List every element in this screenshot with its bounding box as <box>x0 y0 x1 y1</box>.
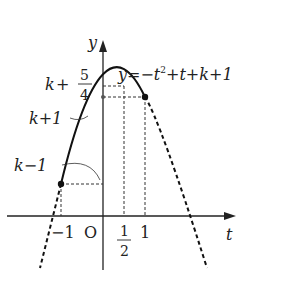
point-t-0 <box>101 95 105 99</box>
parabola-diagram: y=−t2+t+k+1 y t k + 5 4 k+1 k−1 −1 O 1 2… <box>0 0 288 293</box>
t-axis-label: t <box>226 225 233 244</box>
tick-minus-1: −1 <box>51 223 75 242</box>
max-label-den: 4 <box>80 87 89 103</box>
tick-one: 1 <box>140 223 150 242</box>
tick-half-den: 2 <box>120 243 129 259</box>
max-label-num: 5 <box>80 67 89 83</box>
y-axis-arrow-icon <box>99 40 107 52</box>
k-minus-1-label: k−1 <box>14 156 47 175</box>
equation-label: y=−t2+t+k+1 <box>117 65 233 84</box>
k-plus-1-label: k+1 <box>29 109 62 128</box>
max-label-k: k <box>45 75 55 94</box>
leader-k-minus-1 <box>62 163 100 180</box>
origin-label: O <box>84 223 97 242</box>
max-label-plus: + <box>56 75 69 94</box>
point-t-minus-1 <box>58 181 64 187</box>
t-axis-arrow-icon <box>224 212 236 220</box>
tick-half-num: 1 <box>120 223 129 239</box>
y-axis-label: y <box>87 33 98 52</box>
point-t-1 <box>142 94 148 100</box>
parabola-dashed-right <box>145 97 207 268</box>
